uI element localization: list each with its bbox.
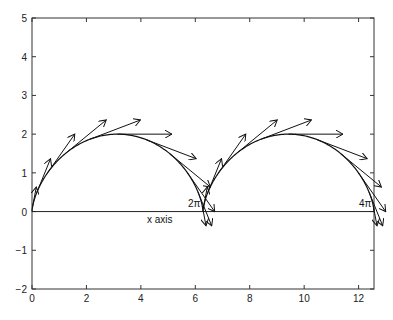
y-tick-label: −1 (16, 245, 28, 256)
y-tick-label: 2 (21, 129, 27, 140)
y-tick-label: 4 (21, 52, 27, 63)
two-pi-label: 2π (188, 198, 201, 209)
y-tick-label: 3 (21, 90, 27, 101)
x-tick-label: 0 (29, 293, 35, 304)
x-axis-annotation: x axis (147, 214, 173, 225)
x-tick-label: 2 (84, 293, 90, 304)
y-tick-label: 1 (21, 168, 27, 179)
y-tick-label: −2 (16, 284, 28, 295)
four-pi-label: 4π (359, 198, 372, 209)
y-tick-label: 0 (21, 207, 27, 218)
x-tick-label: 6 (193, 293, 199, 304)
plot-area (32, 18, 374, 289)
x-tick-label: 8 (247, 293, 253, 304)
x-tick-label: 10 (299, 293, 311, 304)
x-tick-label: 12 (353, 293, 365, 304)
x-tick-label: 4 (138, 293, 144, 304)
cycloid-chart: 024681012−2−1012345 x axis 2π 4π (0, 0, 393, 320)
y-tick-label: 5 (21, 13, 27, 24)
